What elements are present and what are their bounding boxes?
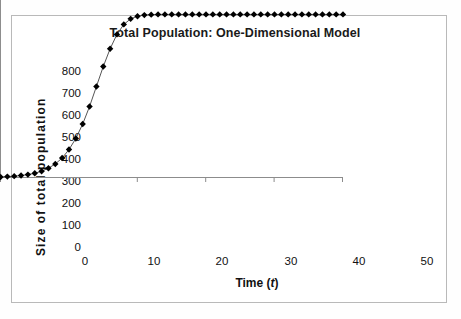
axes-group (0, 0, 343, 182)
data-point-marker (285, 11, 291, 17)
data-point-marker (86, 103, 92, 109)
data-point-marker (93, 83, 99, 89)
data-point-marker (80, 121, 86, 127)
data-point-marker (244, 11, 250, 17)
data-point-marker (189, 11, 195, 17)
data-point-marker (45, 165, 51, 171)
x-tick-label: 40 (339, 255, 379, 267)
data-point-marker (278, 11, 284, 17)
x-axis-tick-labels: 0 10 20 30 40 50 (0, 255, 461, 271)
data-point-marker (162, 11, 168, 17)
x-tick-label: 10 (134, 255, 174, 267)
data-point-marker (32, 170, 38, 176)
data-point-marker (223, 11, 229, 17)
data-point-marker (182, 11, 188, 17)
data-point-marker (100, 63, 106, 69)
data-point-marker (210, 11, 216, 17)
x-axis-title-text: Time (235, 276, 263, 290)
data-point-marker (196, 11, 202, 17)
data-point-marker (299, 11, 305, 17)
data-point-marker (319, 11, 325, 17)
x-tick-label: 0 (65, 255, 105, 267)
data-point-marker (4, 173, 10, 179)
series-line (1, 14, 344, 177)
x-tick-label: 20 (202, 255, 242, 267)
data-point-marker (264, 11, 270, 17)
y-tick-label: 0 (47, 242, 81, 253)
data-point-marker (11, 173, 17, 179)
data-point-marker (38, 168, 44, 174)
data-point-marker (340, 11, 346, 17)
data-point-marker (292, 11, 298, 17)
data-point-marker (134, 13, 140, 19)
data-point-marker (326, 11, 332, 17)
x-tick-label: 50 (407, 255, 447, 267)
x-axis-title: Time (t) (85, 276, 429, 290)
data-point-marker (0, 174, 4, 180)
data-point-marker (114, 31, 120, 37)
data-point-marker (312, 11, 318, 17)
data-point-marker (306, 11, 312, 17)
data-point-marker (333, 11, 339, 17)
x-axis-title-variable: t (271, 276, 275, 290)
y-tick-label: 200 (47, 198, 81, 209)
data-point-marker (271, 11, 277, 17)
data-point-marker (230, 11, 236, 17)
series-markers (0, 11, 346, 180)
data-point-marker (175, 11, 181, 17)
data-point-marker (155, 11, 161, 17)
plot-canvas (0, 0, 350, 182)
y-tick-label: 100 (47, 220, 81, 231)
x-tick-label: 30 (271, 255, 311, 267)
data-point-marker (141, 12, 147, 18)
data-point-marker (203, 11, 209, 17)
data-point-marker (107, 46, 113, 52)
data-point-marker (73, 135, 79, 141)
data-point-marker (148, 11, 154, 17)
data-point-marker (169, 11, 175, 17)
chart-figure: Total Population: One-Dimensional Model … (0, 0, 461, 319)
data-point-marker (258, 11, 264, 17)
data-point-marker (237, 11, 243, 17)
data-point-marker (25, 171, 31, 177)
data-point-marker (217, 11, 223, 17)
x-axis-ticks (1, 178, 343, 183)
data-point-marker (251, 11, 257, 17)
data-series-total-population (0, 11, 346, 180)
